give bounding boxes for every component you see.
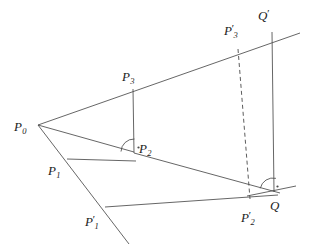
geometry-figure: P0P1P2P3P′1P′2P′3QQ′ [0,0,312,251]
point-label-p2p: P′2 [241,209,255,226]
point-label-p1: P1 [48,162,60,179]
right-angle-mark-q-dot [276,185,278,187]
tangent-line-at-q [247,186,296,196]
label-base: P [14,119,22,134]
segment-p1-to-p2 [67,159,136,161]
segments-layer [38,32,300,244]
point-label-p0: P0 [14,118,26,135]
point-label-p1p: P′1 [85,213,99,230]
label-subscript: 2 [251,217,255,227]
point-label-qp: Q′ [258,7,269,23]
point-label-p2: P2 [139,140,151,157]
label-prime-mark: ′ [248,209,250,221]
label-base: P [122,69,130,84]
point-label-p3p: P′3 [224,22,238,39]
label-base: P [139,141,147,156]
label-subscript: 0 [22,126,26,136]
segment-p2-to-q [134,153,280,193]
point-label-q: Q [270,197,279,213]
label-prime-mark: ′ [92,213,94,225]
label-subscript: 1 [95,221,99,231]
label-prime-mark: ′ [266,7,268,19]
segment-p0-to-p2 [38,125,134,152]
ray-p0-to-qprime [38,33,300,125]
label-base: Q [270,198,279,213]
label-subscript: 2 [147,148,151,158]
label-base: P [48,163,56,178]
segment-p3-to-p2 [133,89,134,153]
label-subscript: 1 [56,170,60,180]
label-subscript: 3 [130,76,134,86]
segment-p1prime-to-q [105,195,278,207]
label-subscript: 3 [234,30,238,40]
ray-p0-through-p1 [38,125,129,244]
label-prime-mark: ′ [231,22,233,34]
diagram-canvas [0,0,312,251]
segment-p3prime-to-p2prime [238,49,250,199]
point-label-p3: P3 [122,68,134,85]
right-angle-mark-p2 [121,139,134,152]
segment-qprime-to-q [272,32,274,192]
